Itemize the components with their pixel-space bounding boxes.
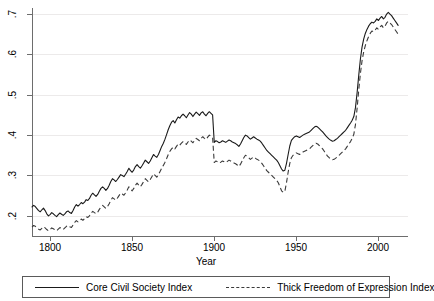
series-line	[32, 21, 398, 230]
legend-label: Thick Freedom of Expression Index	[277, 282, 434, 293]
legend-entry-core-civil-society-index: Core Civil Society Index	[35, 277, 192, 297]
legend-label: Core Civil Society Index	[86, 282, 192, 293]
legend: Core Civil Society Index Thick Freedom o…	[22, 276, 390, 298]
legend-entry-thick-freedom-of-expression-index: Thick Freedom of Expression Index	[226, 277, 434, 297]
legend-key-solid-line-icon	[35, 282, 79, 292]
legend-key-dashed-line-icon	[226, 282, 270, 292]
series-line	[32, 12, 398, 216]
